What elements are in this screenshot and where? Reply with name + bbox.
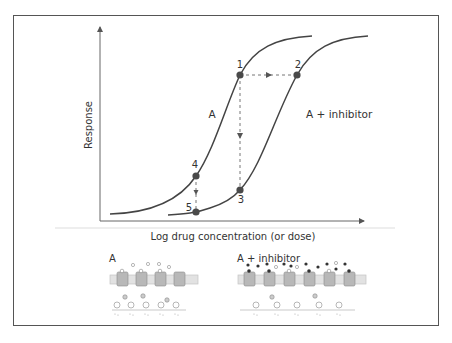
point-label-5: 5 bbox=[186, 202, 192, 213]
y-axis-label: Response bbox=[83, 101, 94, 149]
effectors bbox=[253, 294, 342, 308]
point-2 bbox=[293, 71, 300, 78]
curve-label-a-inhibitor: A + inhibitor bbox=[306, 108, 373, 120]
point-label-4: 4 bbox=[192, 159, 198, 170]
panel-a-title: A bbox=[109, 253, 116, 264]
point-4 bbox=[192, 172, 199, 179]
agonist-molecules bbox=[120, 262, 170, 272]
arrow-right-icon bbox=[266, 72, 272, 78]
signal-dots bbox=[253, 313, 340, 315]
point-label-1: 1 bbox=[237, 59, 243, 70]
signal-dots bbox=[114, 313, 178, 315]
point-label-2: 2 bbox=[295, 59, 301, 70]
axes bbox=[100, 27, 364, 221]
point-1 bbox=[236, 71, 243, 78]
panel-a-inhibitor: A + inhibitor bbox=[237, 253, 366, 316]
point-3 bbox=[236, 186, 243, 193]
guide-lines bbox=[196, 75, 297, 212]
panel-a: A bbox=[109, 253, 198, 316]
curve-label-a: A bbox=[208, 108, 216, 120]
effectors bbox=[114, 294, 179, 308]
point-label-3: 3 bbox=[238, 194, 244, 205]
x-axis-label: Log drug concentration (or dose) bbox=[151, 231, 316, 242]
curve-a-inhibitor bbox=[168, 36, 368, 215]
arrow-down-icon bbox=[237, 133, 243, 139]
curve-a bbox=[110, 36, 312, 214]
panel-a-inhibitor-title: A + inhibitor bbox=[237, 253, 301, 264]
arrow-down-icon bbox=[194, 190, 199, 195]
point-5 bbox=[192, 208, 199, 215]
data-points bbox=[192, 71, 300, 215]
dose-response-diagram: Response Log drug concentration (or dose… bbox=[0, 0, 452, 343]
